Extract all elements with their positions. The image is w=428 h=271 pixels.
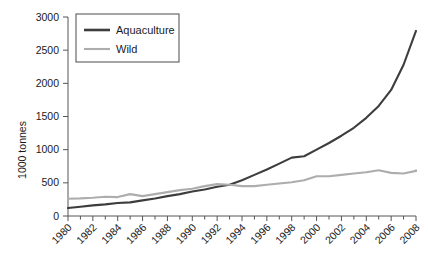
x-tick-label: 1986: [123, 221, 148, 246]
x-tick-label: 2002: [322, 221, 347, 246]
legend-label-wild: Wild: [116, 43, 137, 55]
series-line-wild: [68, 170, 416, 199]
x-tick-label: 2008: [397, 221, 422, 246]
y-tick-label: 2500: [36, 44, 60, 56]
chart-legend: AquacultureWild: [76, 14, 179, 62]
y-axis-title: 1000 tonnes: [16, 121, 28, 179]
y-tick-label: 3000: [36, 11, 60, 23]
x-tick-label: 1998: [273, 221, 298, 246]
y-tick-label: 500: [41, 176, 59, 188]
x-tick-label: 2006: [372, 221, 397, 246]
y-tick-label: 1500: [36, 110, 60, 122]
y-tick-label: 0: [53, 210, 59, 222]
y-axis-tick-labels: 050010001500200025003000: [36, 11, 60, 222]
x-tick-label: 1982: [74, 221, 99, 246]
y-axis-ticks: [63, 17, 68, 216]
x-tick-label: 1990: [173, 221, 198, 246]
chart-container: 050010001500200025003000 198019821984198…: [0, 0, 428, 271]
x-tick-label: 1980: [49, 221, 74, 246]
x-axis-ticks: [68, 216, 416, 221]
y-tick-label: 1000: [36, 143, 60, 155]
x-tick-label: 1996: [248, 221, 273, 246]
x-tick-label: 1984: [99, 221, 124, 246]
x-axis-tick-labels: 1980198219841986198819901992199419961998…: [49, 221, 422, 246]
x-tick-label: 2004: [347, 221, 372, 246]
x-tick-label: 1992: [198, 221, 223, 246]
x-tick-label: 2000: [297, 221, 322, 246]
x-tick-label: 1988: [148, 221, 173, 246]
legend-label-aquaculture: Aquaculture: [116, 24, 175, 36]
line-chart: 050010001500200025003000 198019821984198…: [0, 0, 428, 271]
y-tick-label: 2000: [36, 77, 60, 89]
x-tick-label: 1994: [223, 221, 248, 246]
